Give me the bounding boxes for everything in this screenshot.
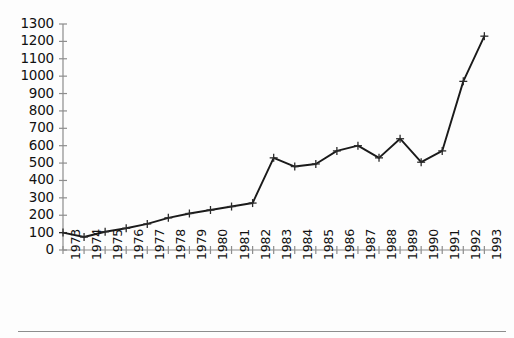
x-tick-label: 1982 <box>258 229 273 260</box>
data-point-marker <box>438 147 446 155</box>
x-tick-label: 1986 <box>342 229 357 260</box>
x-tick-label: 1983 <box>279 229 294 260</box>
y-tick-label: 200 <box>29 206 54 222</box>
y-tick-label: 400 <box>29 171 54 187</box>
data-point-marker <box>291 163 299 171</box>
x-tick-label: 1992 <box>468 229 483 260</box>
data-point-marker <box>164 214 172 222</box>
x-tick-label: 1976 <box>131 229 146 260</box>
x-tick-label: 1993 <box>489 229 504 260</box>
y-tick-label: 0 <box>46 241 54 257</box>
y-tick-label: 700 <box>29 119 54 135</box>
data-point-marker <box>480 32 488 40</box>
x-tick-label: 1987 <box>363 229 378 260</box>
x-tick-label: 1988 <box>384 229 399 260</box>
y-tick-label: 1000 <box>20 67 54 83</box>
x-tick-label: 1984 <box>300 229 315 260</box>
data-point-marker <box>270 154 278 162</box>
data-point-marker <box>59 229 67 237</box>
line-chart-plot <box>0 0 514 338</box>
y-tick-label: 500 <box>29 154 54 170</box>
x-tick-label: 1975 <box>110 229 125 260</box>
footer-rule <box>18 331 506 332</box>
x-tick-label: 1985 <box>321 229 336 260</box>
data-point-markers <box>59 32 488 241</box>
data-point-marker <box>249 199 257 207</box>
y-tick-label: 1300 <box>20 15 54 31</box>
y-tick-label: 100 <box>29 224 54 240</box>
y-tick-label: 300 <box>29 189 54 205</box>
data-point-marker <box>185 209 193 217</box>
x-axis-ticks <box>63 246 484 254</box>
data-line-series-1 <box>63 36 484 237</box>
data-point-marker <box>228 203 236 211</box>
y-tick-label: 600 <box>29 137 54 153</box>
y-tick-label: 1200 <box>20 32 54 48</box>
x-tick-label: 1977 <box>152 229 167 260</box>
x-tick-label: 1989 <box>405 229 420 260</box>
data-point-marker <box>354 142 362 150</box>
x-tick-label: 1978 <box>173 229 188 260</box>
x-tick-label: 1974 <box>89 229 104 260</box>
y-tick-label: 800 <box>29 102 54 118</box>
x-tick-label: 1980 <box>215 229 230 260</box>
y-tick-label: 1100 <box>20 50 54 66</box>
x-tick-label: 1979 <box>194 229 209 260</box>
x-tick-label: 1973 <box>68 229 83 260</box>
x-tick-label: 1981 <box>237 229 252 260</box>
data-point-marker <box>459 77 467 85</box>
data-point-marker <box>206 206 214 214</box>
chart-axes <box>63 24 497 250</box>
y-tick-label: 900 <box>29 85 54 101</box>
x-tick-label: 1990 <box>426 229 441 260</box>
data-point-marker <box>143 220 151 228</box>
chart-figure: 0100200300400500600700800900100011001200… <box>0 0 514 338</box>
x-tick-label: 1991 <box>447 229 462 260</box>
